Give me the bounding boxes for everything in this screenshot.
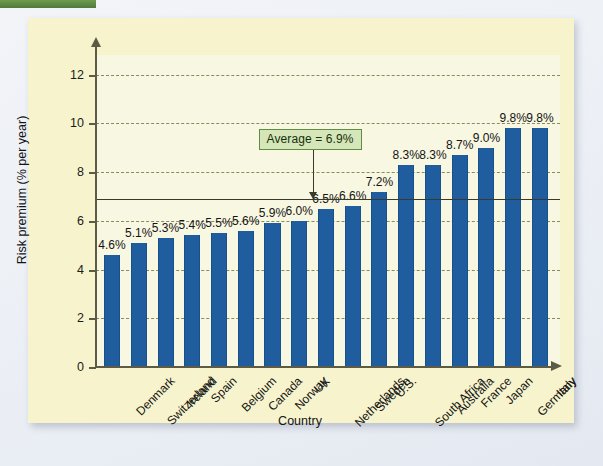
y-tick-label: 4 [77,263,84,277]
y-axis-arrow-icon [91,37,101,47]
bar [345,206,361,367]
bar [264,223,280,367]
bar [211,233,227,367]
y-tick-label: 12 [70,68,84,82]
y-tick-label: 0 [77,360,84,374]
bar-value-label: 4.6% [98,238,125,252]
x-axis-line [95,366,553,368]
bar [291,221,307,367]
y-tick-label: 6 [77,214,84,228]
bar [478,148,494,367]
bar-value-label: 9.8% [500,111,527,125]
bar [371,192,387,368]
bar-value-label: 9.8% [526,111,553,125]
y-tick-label: 8 [77,165,84,179]
bar [398,165,414,367]
average-callout-box: Average = 6.9% [259,129,362,150]
bar-value-label: 9.0% [473,131,500,145]
bar [318,209,334,367]
bar [452,155,468,367]
bar [104,255,120,367]
bar-value-label: 5.5% [205,216,232,230]
x-axis-title: Country [278,414,322,428]
y-axis-title: Risk premium (% per year) [15,116,29,265]
gridline [96,75,560,76]
bar-value-label: 8.7% [446,138,473,152]
bar-value-label: 5.1% [125,226,152,240]
bar-value-label: 5.4% [179,218,206,232]
average-callout-stem [313,150,315,193]
gridline [96,123,560,124]
figure-panel: 024681012 4.6%5.1%5.3%5.4%5.5%5.6%5.9%6.… [28,18,574,423]
bar [184,235,200,367]
y-tick-label: 2 [77,311,84,325]
bar-value-label: 8.3% [393,148,420,162]
bar [131,243,147,367]
bar [532,128,548,367]
bar [238,231,254,368]
bar [158,238,174,367]
y-axis-line [95,45,97,367]
bar [425,165,441,367]
bar-value-label: 7.2% [366,175,393,189]
y-tick-label: 10 [70,116,84,130]
plot-region: 024681012 4.6%5.1%5.3%5.4%5.5%5.6%5.9%6.… [62,33,560,371]
bar-value-label: 6.6% [339,189,366,203]
average-callout-arrow-icon [309,192,317,199]
page-backdrop: 024681012 4.6%5.1%5.3%5.4%5.5%5.6%5.9%6.… [0,0,603,466]
bar-value-label: 5.9% [259,206,286,220]
bar-value-label: 6.0% [286,204,313,218]
average-reference-line [96,199,560,200]
x-axis-arrow-icon [551,361,562,371]
bar-value-label: 5.3% [152,221,179,235]
top-green-tab [0,0,96,8]
bar [505,128,521,367]
bar-value-label: 8.3% [419,148,446,162]
bar-value-label: 5.6% [232,214,259,228]
